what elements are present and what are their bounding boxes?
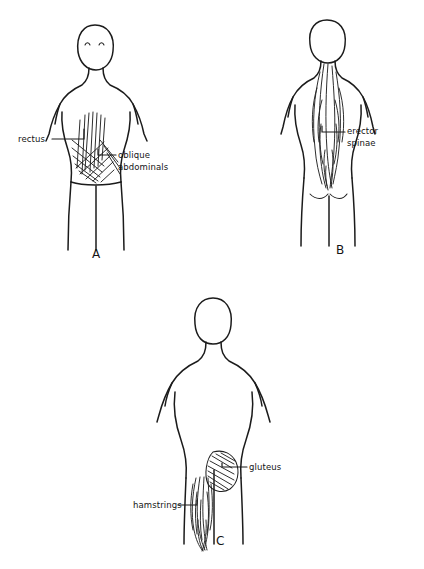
panel-b-leg-left-outer xyxy=(301,178,304,246)
panel-b-head xyxy=(310,20,346,63)
panel-a-eye-right xyxy=(99,43,104,45)
panel-a-letter: A xyxy=(92,247,101,261)
panel-a-body-outline-right xyxy=(103,68,138,124)
panel-c-body-outline-left xyxy=(165,342,206,406)
panel-a-oblique-abdominals xyxy=(72,140,120,183)
panel-a: rectus oblique abdominals A xyxy=(18,25,169,261)
panel-c-leg-right-outer xyxy=(241,478,243,544)
panel-a-eye-left xyxy=(85,43,90,45)
label-gluteus-leader xyxy=(222,463,247,467)
panel-c-hamstrings xyxy=(191,477,213,551)
anatomy-figure-sheet: rectus oblique abdominals A xyxy=(0,0,424,569)
label-erector-spinae-text-line1: erector xyxy=(347,126,379,136)
panel-a-body-outline-left xyxy=(55,68,89,124)
figure-canvas: rectus oblique abdominals A xyxy=(0,0,424,569)
label-gluteus: gluteus xyxy=(222,462,282,472)
label-oblique-abdominals-text-line2: abdominals xyxy=(118,162,169,172)
label-oblique-abdominals-text-line1: oblique xyxy=(118,150,150,160)
label-gluteus-text: gluteus xyxy=(249,462,282,472)
panel-c-body-outline-right xyxy=(221,342,262,406)
panel-c: gluteus hamstrings C xyxy=(133,298,282,551)
panel-b: erector spinae B xyxy=(281,20,379,257)
label-erector-spinae-leader xyxy=(322,126,345,132)
panel-a-arm-left xyxy=(46,104,60,141)
label-hamstrings-text: hamstrings xyxy=(133,500,182,510)
panel-a-head xyxy=(78,25,114,70)
panel-c-head xyxy=(195,298,232,344)
panel-a-arm-right xyxy=(133,104,147,141)
panel-a-waist-left xyxy=(62,112,72,182)
panel-b-erector-spinae xyxy=(312,64,343,190)
panel-b-gluteal-fold-right xyxy=(330,194,347,199)
panel-b-leg-right-outer xyxy=(352,178,355,246)
label-erector-spinae: erector spinae xyxy=(322,126,379,148)
panel-b-gluteal-fold-left xyxy=(310,194,328,199)
panel-a-leg-right-outer xyxy=(121,182,124,250)
panel-c-leg-left-outer xyxy=(184,478,186,544)
panel-b-waist-left xyxy=(295,105,305,178)
panel-c-letter: C xyxy=(216,534,224,548)
panel-c-waist-left xyxy=(174,392,186,478)
panel-b-letter: B xyxy=(336,243,344,257)
label-hamstrings: hamstrings xyxy=(133,500,197,510)
panel-a-leg-left-outer xyxy=(68,182,71,250)
label-erector-spinae-text-line2: spinae xyxy=(347,138,376,148)
label-rectus-text: rectus xyxy=(18,134,45,144)
